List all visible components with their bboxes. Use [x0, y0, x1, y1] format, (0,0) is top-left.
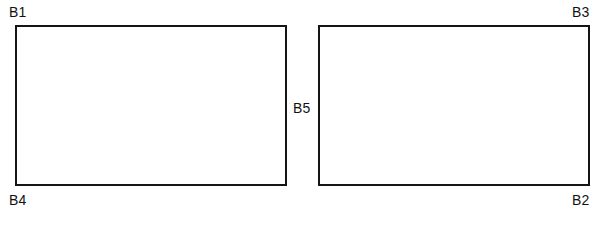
label-b2: B2 [572, 192, 589, 209]
rectangle-left [15, 25, 287, 186]
label-b4: B4 [9, 192, 26, 209]
figure-canvas: B1 B4 B3 B2 B5 [0, 0, 604, 225]
label-b1: B1 [9, 4, 26, 21]
label-b3: B3 [572, 4, 589, 21]
rectangle-right [318, 25, 590, 186]
label-b5: B5 [293, 100, 310, 117]
